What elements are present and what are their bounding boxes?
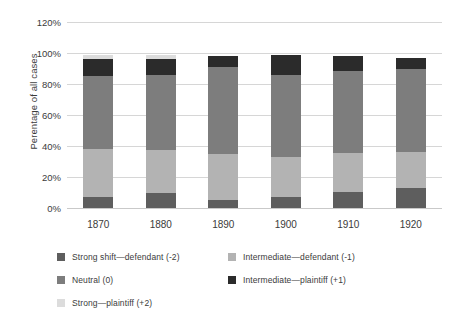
x-axis-tick-label: 1910: [337, 219, 359, 230]
bar-group-1920[interactable]: 1920: [396, 22, 426, 208]
y-axis-tick-label: 0%: [47, 203, 61, 214]
x-axis-tick-label: 1890: [212, 219, 234, 230]
legend-swatch-icon: [57, 299, 65, 307]
legend-item[interactable]: Intermediate—defendant (-1): [228, 252, 355, 262]
y-axis-tick-label: 20%: [42, 172, 61, 183]
bar-segment[interactable]: [208, 154, 238, 201]
bar-segment[interactable]: [333, 56, 363, 71]
stacked-bar[interactable]: [396, 22, 426, 208]
plot-area: 120%100%80%60%40%20%0% 18701880189019001…: [67, 22, 442, 208]
legend-swatch-icon: [57, 253, 65, 261]
legend-item-label: Neutral (0): [72, 275, 113, 285]
legend-item[interactable]: Strong shift—defendant (-2): [57, 252, 180, 262]
legend-item[interactable]: Neutral (0): [57, 275, 113, 285]
legend-swatch-icon: [228, 276, 236, 284]
legend-item-label: Intermediate—plaintiff (+1): [243, 275, 346, 285]
bar-segment[interactable]: [208, 200, 238, 208]
bar-segment[interactable]: [146, 59, 176, 75]
bar-segment[interactable]: [396, 188, 426, 208]
bar-segment[interactable]: [333, 71, 363, 153]
x-axis-tick-label: 1900: [275, 219, 297, 230]
legend-swatch-icon: [57, 276, 65, 284]
bar-segment[interactable]: [396, 58, 426, 69]
x-axis-tick-label: 1870: [87, 219, 109, 230]
y-axis-title: Perentage of all cases: [28, 22, 39, 182]
bar-series-container: 187018801890190019101920: [67, 22, 442, 208]
chart-legend: Strong shift—defendant (-2)Intermediate—…: [57, 252, 437, 320]
legend-swatch-icon: [228, 253, 236, 261]
bar-segment[interactable]: [396, 69, 426, 153]
y-axis-tick-label: 100%: [37, 48, 61, 59]
legend-item-label: Strong shift—defendant (-2): [72, 252, 180, 262]
bar-group-1900[interactable]: 1900: [271, 22, 301, 208]
bar-group-1890[interactable]: 1890: [208, 22, 238, 208]
bar-segment[interactable]: [396, 152, 426, 188]
bar-group-1880[interactable]: 1880: [146, 22, 176, 208]
bar-group-1910[interactable]: 1910: [333, 22, 363, 208]
bar-segment[interactable]: [83, 76, 113, 149]
y-axis-tick-label: 60%: [42, 110, 61, 121]
bar-segment[interactable]: [333, 192, 363, 208]
stacked-bar-chart: Perentage of all cases 120%100%80%60%40%…: [0, 0, 453, 330]
x-axis-tick-label: 1920: [400, 219, 422, 230]
bar-segment[interactable]: [271, 197, 301, 208]
bar-group-1870[interactable]: 1870: [83, 22, 113, 208]
stacked-bar[interactable]: [83, 22, 113, 208]
bar-segment[interactable]: [83, 55, 113, 60]
bar-segment[interactable]: [208, 56, 238, 67]
bar-segment[interactable]: [83, 197, 113, 208]
bar-segment[interactable]: [146, 150, 176, 193]
y-axis-tick-label: 40%: [42, 141, 61, 152]
bar-segment[interactable]: [83, 149, 113, 197]
bar-segment[interactable]: [271, 55, 301, 75]
legend-item-label: Intermediate—defendant (-1): [243, 252, 355, 262]
stacked-bar[interactable]: [146, 22, 176, 208]
y-axis-tick-label: 80%: [42, 79, 61, 90]
bar-segment[interactable]: [146, 193, 176, 209]
x-axis-tick-label: 1880: [150, 219, 172, 230]
bar-segment[interactable]: [146, 75, 176, 150]
gridline: 0%: [67, 208, 442, 209]
bar-segment[interactable]: [146, 55, 176, 60]
bar-segment[interactable]: [208, 67, 238, 154]
bar-segment[interactable]: [271, 157, 301, 197]
bar-segment[interactable]: [333, 153, 363, 192]
bar-segment[interactable]: [271, 75, 301, 157]
y-axis-tick-label: 120%: [37, 17, 61, 28]
legend-item-label: Strong—plaintiff (+2): [72, 298, 152, 308]
legend-item[interactable]: Intermediate—plaintiff (+1): [228, 275, 346, 285]
stacked-bar[interactable]: [208, 22, 238, 208]
bar-segment[interactable]: [83, 59, 113, 76]
stacked-bar[interactable]: [333, 22, 363, 208]
legend-item[interactable]: Strong—plaintiff (+2): [57, 298, 152, 308]
stacked-bar[interactable]: [271, 22, 301, 208]
